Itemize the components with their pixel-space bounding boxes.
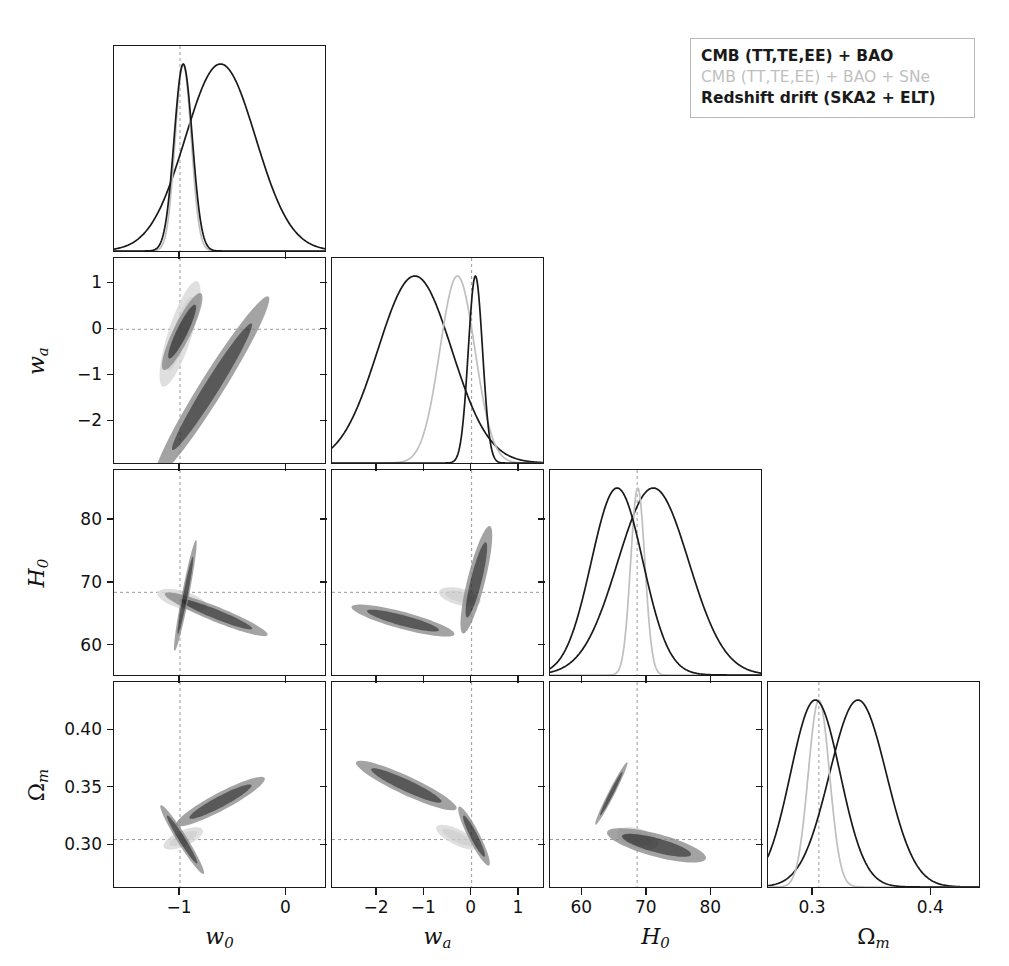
xtick	[470, 464, 471, 471]
marginal-curve	[114, 64, 326, 251]
contour-region	[356, 761, 457, 811]
xtick	[375, 676, 376, 683]
marginal-curve	[332, 276, 544, 463]
y-tick-label: 0.40	[0, 719, 102, 739]
ytick	[107, 420, 114, 421]
panel-marginal-Omegam	[767, 681, 980, 888]
x-tick-label: 0	[465, 897, 476, 917]
x-tick-label: 0.4	[917, 897, 944, 917]
xtick	[645, 676, 646, 683]
ytick-right	[756, 844, 763, 845]
ytick-right	[538, 518, 545, 519]
legend-entry-cmb-bao-sne: CMB (TT,TE,EE) + BAO + SNe	[701, 67, 964, 88]
ytick	[107, 844, 114, 845]
y-tick-label: 0.30	[0, 834, 102, 854]
x-tick-label: 1	[513, 897, 524, 917]
ytick-right	[320, 518, 327, 519]
xtick	[517, 888, 518, 895]
ytick-right	[320, 581, 327, 582]
ytick	[107, 581, 114, 582]
ytick	[107, 729, 114, 730]
ytick	[107, 374, 114, 375]
panel-marginal-w0	[113, 45, 326, 252]
ytick-right	[320, 786, 327, 787]
y-axis-title-H0: H0	[24, 558, 52, 587]
xtick	[517, 464, 518, 471]
ytick-right	[320, 328, 327, 329]
marginal-curve	[550, 488, 762, 675]
ytick-right	[538, 729, 545, 730]
xtick	[285, 464, 286, 471]
contour-region	[352, 605, 455, 637]
ytick	[107, 328, 114, 329]
marginal-curve	[332, 276, 544, 463]
xtick	[645, 888, 646, 895]
x-tick-label: −1	[411, 897, 436, 917]
marginal-curve	[332, 276, 544, 463]
x-tick-label: −1	[166, 897, 191, 917]
contour-region	[595, 762, 627, 825]
corner-plot-figure: CMB (TT,TE,EE) + BAO CMB (TT,TE,EE) + BA…	[0, 0, 1009, 966]
xtick	[517, 676, 518, 683]
panel-Omegam-vs-wa	[331, 681, 544, 888]
xtick	[811, 888, 812, 895]
legend-entry-cmb-bao: CMB (TT,TE,EE) + BAO	[701, 46, 964, 67]
legend-entry-redshift-drift: Redshift drift (SKA2 + ELT)	[701, 88, 964, 109]
contour-region	[176, 777, 265, 826]
ytick-right	[320, 844, 327, 845]
x-axis-title-H0: H0	[641, 924, 670, 952]
ytick	[107, 282, 114, 283]
x-tick-label: 60	[570, 897, 592, 917]
xtick	[285, 252, 286, 259]
panel-wa-vs-w0	[113, 257, 326, 464]
ytick-right	[320, 644, 327, 645]
x-axis-title-w0: w0	[205, 924, 233, 952]
xtick	[470, 888, 471, 895]
ytick-right	[756, 786, 763, 787]
y-tick-label: 1	[0, 272, 102, 292]
panel-marginal-H0	[549, 469, 762, 676]
ytick-right	[320, 420, 327, 421]
x-axis-title-Omegam: Ωm	[857, 924, 889, 952]
marginal-curve	[768, 700, 980, 887]
ytick-right	[538, 644, 545, 645]
xtick	[375, 464, 376, 471]
xtick	[423, 888, 424, 895]
xtick	[423, 676, 424, 683]
ytick-right	[320, 282, 327, 283]
xtick	[285, 676, 286, 683]
x-axis-title-wa: wa	[424, 924, 452, 952]
xtick	[710, 888, 711, 895]
x-tick-label: 80	[700, 897, 722, 917]
y-tick-label: −2	[0, 410, 102, 430]
panel-Omegam-vs-H0	[549, 681, 762, 888]
x-tick-label: 70	[635, 897, 657, 917]
xtick	[178, 464, 179, 471]
panel-marginal-wa	[331, 257, 544, 464]
xtick	[710, 676, 711, 683]
x-tick-label: 0.3	[798, 897, 825, 917]
xtick	[285, 888, 286, 895]
xtick	[178, 676, 179, 683]
xtick	[581, 676, 582, 683]
legend: CMB (TT,TE,EE) + BAO CMB (TT,TE,EE) + BA…	[690, 38, 975, 118]
marginal-curve	[550, 488, 762, 673]
panel-H0-vs-wa	[331, 469, 544, 676]
marginal-curve	[114, 64, 326, 249]
marginal-curve	[114, 64, 326, 251]
xtick	[178, 252, 179, 259]
xtick	[423, 464, 424, 471]
y-tick-label: 80	[0, 509, 102, 529]
xtick	[375, 888, 376, 895]
y-tick-label: 0	[0, 318, 102, 338]
y-tick-label: 60	[0, 635, 102, 655]
contour-region	[607, 828, 706, 862]
ytick	[107, 786, 114, 787]
ytick-right	[538, 786, 545, 787]
ytick-right	[320, 374, 327, 375]
ytick	[107, 644, 114, 645]
panel-Omegam-vs-w0	[113, 681, 326, 888]
xtick	[470, 676, 471, 683]
x-tick-label: 0	[280, 897, 291, 917]
ytick-right	[320, 729, 327, 730]
